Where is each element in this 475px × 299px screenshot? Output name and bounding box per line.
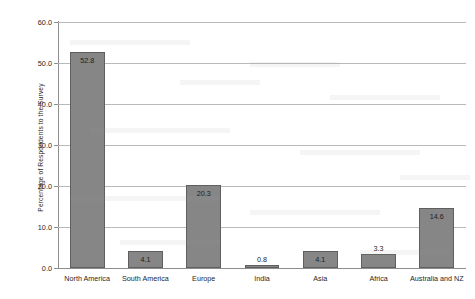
gridline bbox=[58, 227, 466, 228]
bar: 3.3 bbox=[361, 254, 396, 268]
gridline bbox=[58, 22, 466, 23]
gridline bbox=[58, 186, 466, 187]
y-tick-label: 30.0 bbox=[22, 141, 52, 150]
x-category-label: Africa bbox=[349, 274, 407, 283]
bar: 0.8 bbox=[245, 265, 280, 268]
x-category-label: India bbox=[233, 274, 291, 283]
bar: 4.1 bbox=[303, 251, 338, 268]
bar: 14.6 bbox=[419, 208, 454, 268]
x-axis-line bbox=[58, 268, 466, 269]
y-tick-label: 10.0 bbox=[22, 223, 52, 232]
bar-value-label: 4.1 bbox=[129, 255, 162, 264]
x-category-label: North America bbox=[58, 274, 116, 283]
y-tick-label: 60.0 bbox=[22, 18, 52, 27]
bar-value-label: 4.1 bbox=[304, 255, 337, 264]
plot-area: 52.84.120.30.84.13.314.6 bbox=[58, 22, 466, 268]
y-tick-mark bbox=[54, 268, 58, 269]
bar-chart: Percentage of Respondents to the Survey … bbox=[0, 0, 475, 299]
bar: 52.8 bbox=[70, 52, 105, 268]
bar: 4.1 bbox=[128, 251, 163, 268]
gridline bbox=[58, 104, 466, 105]
gridline bbox=[58, 63, 466, 64]
y-tick-label: 40.0 bbox=[22, 100, 52, 109]
x-category-label: Australia and NZ bbox=[408, 274, 466, 283]
bar-value-label: 0.8 bbox=[246, 255, 279, 264]
gridline bbox=[58, 145, 466, 146]
y-tick-label: 50.0 bbox=[22, 59, 52, 68]
bar-value-label: 52.8 bbox=[71, 56, 104, 65]
y-tick-label: 20.0 bbox=[22, 182, 52, 191]
x-category-label: Europe bbox=[175, 274, 233, 283]
y-tick-label: 0.0 bbox=[22, 264, 52, 273]
x-category-label: South America bbox=[116, 274, 174, 283]
bar-value-label: 3.3 bbox=[362, 244, 395, 253]
bar-value-label: 14.6 bbox=[420, 212, 453, 221]
bar: 20.3 bbox=[186, 185, 221, 268]
bar-value-label: 20.3 bbox=[187, 189, 220, 198]
x-category-label: Asia bbox=[291, 274, 349, 283]
